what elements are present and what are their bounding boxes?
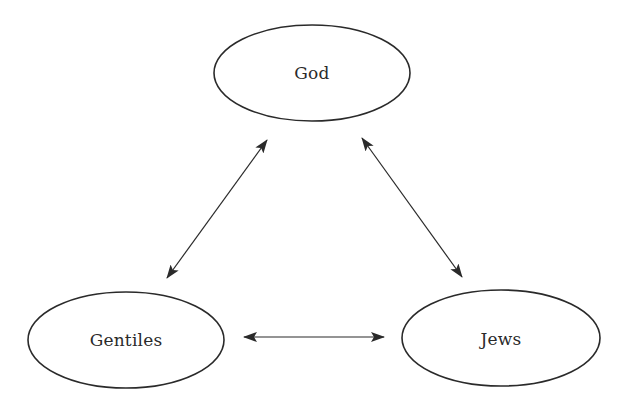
node-jews-label: Jews (481, 329, 522, 349)
node-gentiles-label: Gentiles (90, 330, 163, 350)
node-god-label: God (294, 63, 329, 83)
edge-god-jews-arrow (362, 138, 462, 277)
edge-god-gentiles-arrow (167, 140, 267, 278)
